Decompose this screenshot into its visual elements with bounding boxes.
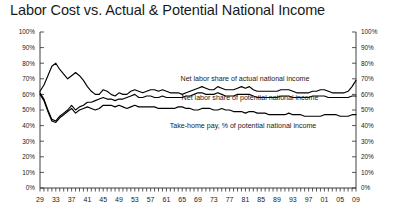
x-axis-tick-label: 37 <box>68 196 76 203</box>
x-axis-tick-label: 09 <box>352 196 360 203</box>
x-axis-tick-label: 49 <box>115 196 123 203</box>
x-axis-tick-label: 65 <box>178 196 186 203</box>
x-axis-tick-label: 57 <box>147 196 155 203</box>
right-axis-tick-label: 10% <box>361 169 374 176</box>
series-annotations: Net labor share of actual national incom… <box>170 75 319 130</box>
right-axis-tick-label: 60% <box>361 91 374 98</box>
chart-plot: 0%10%20%30%40%50%60%70%80%90%100% 0%10%2… <box>0 0 396 216</box>
left-axis: 0%10%20%30%40%50%60%70%80%90%100% <box>19 28 44 191</box>
left-axis-tick-label: 40% <box>22 122 35 129</box>
x-axis-tick-label: 05 <box>336 196 344 203</box>
x-axis-tick-label: 29 <box>36 196 44 203</box>
x-axis-tick-label: 73 <box>210 196 218 203</box>
right-axis-tick-label: 50% <box>361 106 374 113</box>
left-axis-tick-label: 10% <box>22 169 35 176</box>
x-axis: 2933374145495357616569737781858993970105… <box>36 188 360 203</box>
x-axis-tick-label: 61 <box>163 196 171 203</box>
left-axis-tick-label: 90% <box>22 44 35 51</box>
left-axis-tick-label: 100% <box>19 28 36 35</box>
left-axis-tick-label: 50% <box>22 106 35 113</box>
x-axis-tick-label: 33 <box>52 196 60 203</box>
left-axis-tick-label: 20% <box>22 153 35 160</box>
x-axis-tick-label: 89 <box>273 196 281 203</box>
series-annotation-1: Net labor share of actual national incom… <box>181 75 310 83</box>
right-axis-tick-label: 30% <box>361 138 374 145</box>
left-axis-tick-label: 60% <box>22 91 35 98</box>
x-axis-tick-label: 77 <box>226 196 234 203</box>
x-axis-tick-label: 53 <box>131 196 139 203</box>
x-axis-tick-label: 93 <box>289 196 297 203</box>
right-axis-tick-label: 100% <box>361 28 378 35</box>
x-axis-tick-label: 81 <box>242 196 250 203</box>
x-axis-tick-label: 97 <box>305 196 313 203</box>
right-axis-tick-label: 40% <box>361 122 374 129</box>
right-axis-tick-label: 70% <box>361 75 374 82</box>
left-axis-tick-label: 0% <box>26 184 36 191</box>
x-axis-tick-label: 45 <box>99 196 107 203</box>
series-lines <box>40 63 356 122</box>
series-annotation-2: Net labor share of potential national in… <box>182 94 319 102</box>
x-axis-tick-label: 01 <box>321 196 329 203</box>
x-axis-tick-label: 41 <box>84 196 92 203</box>
right-axis-tick-label: 80% <box>361 60 374 67</box>
left-axis-tick-label: 70% <box>22 75 35 82</box>
right-axis-tick-label: 0% <box>361 184 371 191</box>
left-axis-tick-label: 80% <box>22 60 35 67</box>
right-axis: 0%10%20%30%40%50%60%70%80%90%100% <box>352 28 378 191</box>
x-axis-tick-label: 85 <box>257 196 265 203</box>
left-axis-tick-label: 30% <box>22 138 35 145</box>
chart-container: Labor Cost vs. Actual & Potential Nation… <box>0 0 396 216</box>
right-axis-tick-label: 20% <box>361 153 374 160</box>
x-axis-tick-label: 69 <box>194 196 202 203</box>
right-axis-tick-label: 90% <box>361 44 374 51</box>
series-annotation-3: Take-home pay, % of potential national i… <box>170 122 317 130</box>
